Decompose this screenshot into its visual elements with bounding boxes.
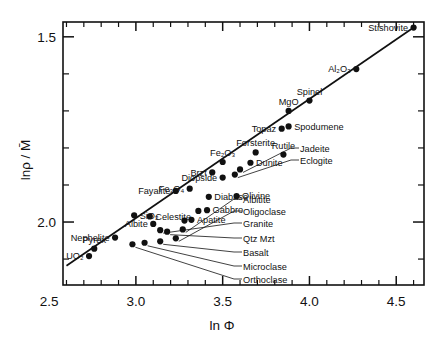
data-point-label: UO₂ — [66, 251, 84, 261]
data-point-label: Oligoclase — [243, 207, 286, 217]
data-point — [157, 238, 163, 244]
data-point-label: Diopside — [181, 173, 217, 183]
x-tick-label: 3.0 — [127, 294, 146, 309]
data-point — [232, 172, 238, 178]
x-axis-tick-labels: 2.53.03.54.04.5 — [40, 294, 406, 309]
x-axis-ticks-bottom — [66, 276, 413, 285]
data-point — [204, 207, 210, 213]
data-point-label: Celestite — [155, 212, 191, 222]
data-point-label: Stishovite — [368, 23, 408, 33]
data-point-label: Al₂O₃ — [328, 64, 351, 74]
x-tick-label: 2.5 — [40, 294, 59, 309]
data-point — [247, 160, 253, 166]
data-point-label: Spodumene — [294, 122, 344, 132]
data-point — [253, 149, 259, 155]
data-point — [195, 208, 201, 214]
data-point-labels: StishoviteAl₂O₃SpinelMgOSpodumeneTopazRu… — [66, 23, 408, 285]
data-point — [220, 174, 226, 180]
data-point — [129, 241, 135, 247]
leader-line — [163, 244, 242, 252]
data-point — [306, 97, 312, 103]
x-axis-title: ln Φ — [209, 318, 234, 333]
leader-line — [135, 247, 242, 279]
data-point — [164, 229, 170, 235]
data-point-label: Spinel — [297, 87, 323, 97]
data-point-label: Orthoclase — [243, 275, 287, 285]
data-point — [131, 212, 137, 218]
data-point — [141, 240, 147, 246]
data-point-label: Topaz — [252, 124, 277, 134]
data-point-label: Pyrex — [82, 235, 106, 245]
data-point — [286, 108, 292, 114]
data-point — [206, 194, 212, 200]
x-tick-label: 4.0 — [300, 294, 319, 309]
data-point-label: Fayalite — [138, 186, 170, 196]
data-point — [353, 66, 359, 72]
x-tick-label: 3.5 — [213, 294, 232, 309]
x-tick-label: 4.5 — [387, 294, 406, 309]
data-point-label: Albite — [125, 219, 148, 229]
data-point-label: Granite — [243, 219, 273, 229]
data-point-label: Forsterite — [236, 138, 275, 148]
data-point — [112, 234, 118, 240]
data-point-label: Gabbro — [213, 205, 244, 215]
leader-line — [170, 235, 242, 238]
data-point — [237, 166, 243, 172]
data-point — [410, 24, 416, 30]
data-point-label: Qtz Mzt — [243, 234, 275, 244]
y-tick-label: 1.5 — [37, 30, 56, 45]
y-axis-ticks-right — [413, 37, 424, 259]
data-point-label: MgO — [279, 97, 299, 107]
y-axis-tick-labels: 1.52.0 — [37, 30, 56, 230]
data-point — [86, 253, 92, 259]
data-point-label: Microclase — [243, 262, 287, 272]
plot-canvas: StishoviteAl₂O₃SpinelMgOSpodumeneTopazRu… — [0, 0, 444, 337]
data-point-label: Eclogite — [300, 156, 333, 166]
data-point — [279, 126, 285, 132]
data-point — [187, 186, 193, 192]
x-axis-ticks-top — [66, 22, 413, 31]
y-axis-title: lnρ / M̄ — [18, 140, 33, 181]
plot-frame — [63, 22, 424, 285]
data-point — [150, 221, 156, 227]
data-point — [286, 123, 292, 129]
scatter-plot-figure: StishoviteAl₂O₃SpinelMgOSpodumeneTopazRu… — [0, 0, 444, 337]
data-point-label: Apatite — [197, 215, 226, 225]
data-point — [173, 235, 179, 241]
y-tick-label: 2.0 — [37, 215, 56, 230]
data-point — [280, 152, 286, 158]
data-point — [157, 227, 163, 233]
data-point — [220, 159, 226, 165]
data-point-label: Jadeite — [300, 144, 330, 154]
data-point-label: Fe₂O₃ — [210, 148, 235, 158]
data-point-label: Basalt — [243, 248, 269, 258]
data-point — [91, 246, 97, 252]
data-point-label: Rutile — [272, 141, 296, 151]
data-point-label: Albitite — [243, 195, 271, 205]
y-axis-ticks-left — [63, 37, 74, 259]
data-point — [180, 226, 186, 232]
data-point-label: Dunite — [256, 158, 283, 168]
